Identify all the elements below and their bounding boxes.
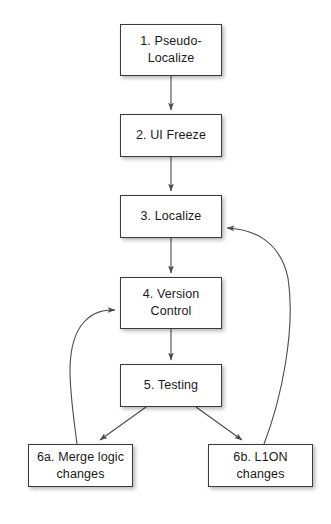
node-l10n-changes[interactable]: 6b. L1ON changes <box>208 444 313 487</box>
node-localize[interactable]: 3. Localize <box>120 195 222 238</box>
node-version-control[interactable]: 4. Version Control <box>120 277 222 329</box>
edge-n6b-n3 <box>227 228 290 444</box>
node-testing[interactable]: 5. Testing <box>120 364 222 407</box>
node-label: 6a. Merge logic changes <box>31 449 130 483</box>
edge-n5-n6b <box>196 407 242 440</box>
edge-n6a-n4 <box>70 310 115 444</box>
node-label: 1. Pseudo- Localize <box>134 33 207 67</box>
node-ui-freeze[interactable]: 2. UI Freeze <box>120 114 222 157</box>
node-label: 5. Testing <box>138 377 204 394</box>
node-label: 3. Localize <box>135 208 208 225</box>
node-label: 2. UI Freeze <box>130 127 212 144</box>
edge-n5-n6a <box>100 407 146 440</box>
node-label: 6b. L1ON changes <box>227 449 293 483</box>
flowchart-diagram: 1. Pseudo- Localize 2. UI Freeze 3. Loca… <box>0 0 331 524</box>
node-merge-logic-changes[interactable]: 6a. Merge logic changes <box>28 444 133 487</box>
node-label: 4. Version Control <box>137 286 206 320</box>
node-pseudo-localize[interactable]: 1. Pseudo- Localize <box>120 24 222 76</box>
